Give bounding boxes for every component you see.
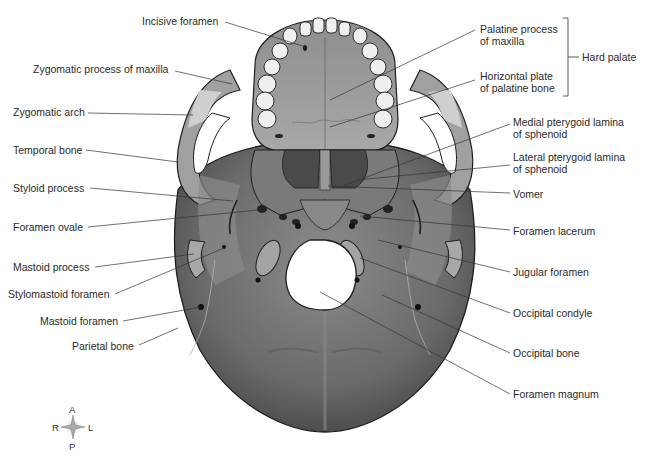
hard-palate-bracket bbox=[563, 18, 579, 96]
label-foramen-lacerum: Foramen lacerum bbox=[513, 225, 595, 237]
label-foramen-ovale: Foramen ovale bbox=[13, 221, 83, 233]
label-occipital-condyle: Occipital condyle bbox=[513, 307, 592, 319]
compass-anterior: A bbox=[69, 404, 75, 415]
label-foramen-magnum: Foramen magnum bbox=[513, 388, 599, 400]
label-temporal-bone: Temporal bone bbox=[13, 144, 82, 156]
label-lateral-pterygoid-lamina: Lateral pterygoid lamina of sphenoid bbox=[513, 151, 625, 175]
foramen-magnum-shape bbox=[286, 240, 356, 310]
label-zygomatic-process-of-maxilla: Zygomatic process of maxilla bbox=[33, 63, 168, 75]
label-incisive-foramen: Incisive foramen bbox=[142, 15, 218, 27]
label-jugular-foramen: Jugular foramen bbox=[513, 266, 589, 278]
label-mastoid-process: Mastoid process bbox=[13, 261, 89, 273]
label-occipital-bone: Occipital bone bbox=[513, 347, 580, 359]
compass-posterior: P bbox=[69, 441, 75, 452]
orientation-compass bbox=[61, 415, 85, 439]
label-mastoid-foramen: Mastoid foramen bbox=[40, 315, 118, 327]
label-zygomatic-arch: Zygomatic arch bbox=[13, 106, 85, 118]
label-vomer: Vomer bbox=[513, 188, 543, 200]
label-medial-pterygoid-lamina: Medial pterygoid lamina of sphenoid bbox=[513, 116, 624, 140]
label-stylomastoid-foramen: Stylomastoid foramen bbox=[8, 288, 110, 300]
label-horizontal-plate-of-palatine-bone: Horizontal plate of palatine bone bbox=[480, 70, 555, 94]
label-parietal-bone: Parietal bone bbox=[72, 340, 134, 352]
label-styloid-process: Styloid process bbox=[13, 182, 84, 194]
label-palatine-process-of-maxilla: Palatine process of maxilla bbox=[480, 23, 558, 47]
skull-diagram: Incisive foramen Zygomatic process of ma… bbox=[0, 0, 648, 457]
compass-right: R bbox=[52, 422, 59, 433]
label-hard-palate: Hard palate bbox=[582, 51, 636, 63]
compass-left: L bbox=[88, 422, 93, 433]
